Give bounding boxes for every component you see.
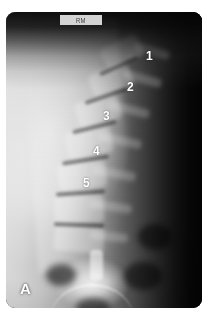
vertebra-label-3: 3 [103, 110, 110, 122]
film-grain-layer [6, 12, 202, 308]
vertebra-label-1: 1 [146, 50, 153, 62]
figure-panel: RM 12345 A [0, 0, 209, 316]
panel-letter-label: A [20, 281, 31, 296]
vertebra-label-4: 4 [93, 145, 100, 157]
radiographic-side-marker: RM [60, 15, 102, 25]
radiograph-image: RM 12345 A [6, 12, 202, 308]
radiographic-side-marker-text: RM [76, 17, 86, 24]
vertebra-label-2: 2 [127, 81, 134, 93]
vertebra-label-5: 5 [83, 177, 90, 189]
